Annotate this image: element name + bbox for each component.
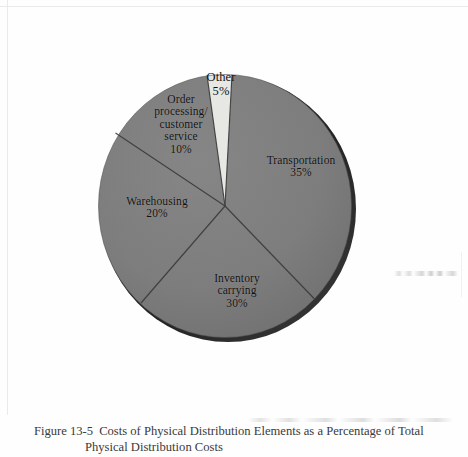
figure-caption-text-line-1: Costs of Physical Distribution Elements … [99,424,424,438]
figure-number: Figure 13-5 [34,424,93,438]
pie-chart: Other 5% Transportation 35% Inventory ca… [0,0,468,400]
slice-label-warehousing-name: Warehousing [105,195,209,207]
slice-label-order-processing-value: 10% [141,143,221,155]
figure-caption-line-1: Figure 13-5Costs of Physical Distributio… [34,424,424,439]
slice-label-transportation-name: Transportation [243,154,359,166]
slice-label-other-name: Other [190,71,252,85]
figure-caption: Figure 13-5Costs of Physical Distributio… [0,424,468,457]
slice-label-order-processing-line3: customer [141,118,221,130]
slice-label-order-processing-line2: processing/ [141,105,221,117]
figure-caption-line-2: Physical Distribution Costs [85,440,223,455]
slice-label-inventory-carrying-line1: Inventory [186,272,288,284]
slice-label-warehousing-value: 20% [105,207,209,219]
scanned-page: Other 5% Transportation 35% Inventory ca… [0,0,468,457]
slice-label-warehousing: Warehousing 20% [105,195,209,220]
slice-label-inventory-carrying-value: 30% [186,297,288,309]
pie-chart-svg [0,0,468,400]
scan-artifact-caption [248,418,453,422]
slice-label-transportation: Transportation 35% [243,154,359,179]
slice-label-inventory-carrying: Inventory carrying 30% [186,272,288,309]
slice-label-transportation-value: 35% [243,166,359,178]
slice-label-order-processing-line4: service [141,130,221,142]
slice-label-order-processing-line1: Order [141,93,221,105]
slice-label-inventory-carrying-line2: carrying [186,284,288,296]
slice-label-order-processing: Order processing/ customer service 10% [141,93,221,155]
